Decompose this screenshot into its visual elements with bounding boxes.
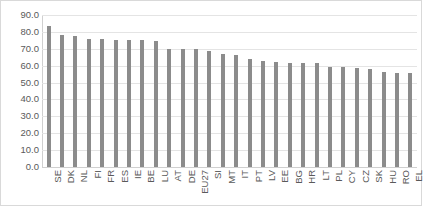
x-axis-tick-label: AT xyxy=(173,170,183,181)
bar xyxy=(248,59,252,167)
y-axis-tick-label: 80.0 xyxy=(1,27,39,37)
bar xyxy=(140,40,144,167)
x-axis-tick-label: ES xyxy=(120,170,130,183)
y-axis-tick-label: 40.0 xyxy=(1,95,39,105)
bar xyxy=(154,41,158,167)
x-axis-tick-label: CZ xyxy=(361,170,371,183)
x-axis-tick-label: PL xyxy=(334,170,344,182)
x-axis-tick-label: DE xyxy=(187,170,197,183)
y-axis-tick-label: 90.0 xyxy=(1,10,39,20)
bar xyxy=(221,54,225,167)
x-axis-tick-label: SI xyxy=(213,170,223,179)
bar xyxy=(261,61,265,167)
bar xyxy=(395,73,399,167)
y-axis-tick-label: 70.0 xyxy=(1,44,39,54)
bar xyxy=(234,55,238,167)
bar xyxy=(207,51,211,167)
x-axis-tick-label: SE xyxy=(53,170,63,183)
plot-area xyxy=(42,15,417,167)
x-axis-tick-label: CY xyxy=(347,170,357,183)
bar xyxy=(382,72,386,167)
bar xyxy=(194,49,198,167)
x-axis-tick-label: DK xyxy=(66,170,76,183)
bar xyxy=(288,63,292,167)
x-axis-tick-label: EU27 xyxy=(200,170,210,194)
bar xyxy=(408,73,412,167)
bar xyxy=(127,40,131,167)
x-axis-tick-label: EE xyxy=(280,170,290,183)
y-axis-tick-label: 20.0 xyxy=(1,128,39,138)
y-axis-tick-label: 50.0 xyxy=(1,78,39,88)
bar xyxy=(100,39,104,167)
x-axis-tick-label: MT xyxy=(227,170,237,184)
bar xyxy=(181,49,185,167)
y-axis-tick-label: 0.0 xyxy=(1,162,39,172)
x-axis-tick-label: NL xyxy=(79,170,89,182)
x-axis-tick-label: FI xyxy=(93,170,103,178)
bar xyxy=(355,68,359,167)
x-axis-tick-label: IT xyxy=(240,170,250,178)
bar xyxy=(47,26,51,167)
bar xyxy=(60,35,64,167)
x-axis-tick-label: FR xyxy=(106,170,116,183)
bar xyxy=(167,49,171,167)
x-axis-tick-label: SK xyxy=(374,170,384,183)
bar xyxy=(114,40,118,167)
y-axis-tick-label: 10.0 xyxy=(1,145,39,155)
y-axis-tick-label: 30.0 xyxy=(1,112,39,122)
bar xyxy=(368,69,372,167)
bar xyxy=(274,62,278,167)
bar xyxy=(328,67,332,167)
x-axis-tick-label: LT xyxy=(321,170,331,180)
y-axis-tick-labels: 90.080.070.060.050.040.030.020.010.00.0 xyxy=(1,15,39,167)
bar xyxy=(315,63,319,167)
bar-series xyxy=(42,15,417,167)
y-axis-tick-label: 60.0 xyxy=(1,61,39,71)
x-axis-tick-label: BG xyxy=(294,170,304,184)
x-axis-tick-label: LV xyxy=(267,170,277,181)
bar xyxy=(341,67,345,167)
x-axis-tick-label: HR xyxy=(307,170,317,184)
x-axis-tick-labels: SEDKNLFIFRESIEBELUATDEEU27SIMTITPTLVEEBG… xyxy=(42,170,417,206)
x-axis-tick-label: PT xyxy=(254,170,264,182)
x-axis-tick-label: LU xyxy=(160,170,170,182)
bar xyxy=(73,36,77,167)
x-axis-tick-label: RO xyxy=(401,170,411,184)
bar xyxy=(87,39,91,167)
gridline xyxy=(42,167,417,168)
x-axis-tick-label: IE xyxy=(133,170,143,179)
bar xyxy=(301,63,305,167)
x-axis-tick-label: EL xyxy=(414,170,424,182)
x-axis-tick-label: HU xyxy=(388,170,398,184)
x-axis-tick-label: BE xyxy=(146,170,156,183)
